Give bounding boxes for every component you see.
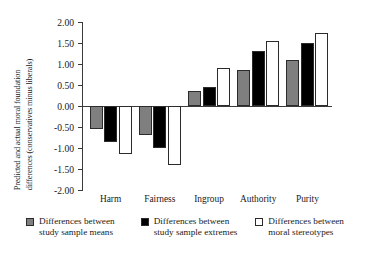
bar-purity-series-1 [286,60,299,106]
y-tick-mark [78,190,83,191]
y-tick-mark [78,127,83,128]
bar-chart-figure: Predicted and actual moral foundation di… [0,0,368,255]
y-tick-mark [78,22,83,23]
legend-swatch-icon [255,218,263,226]
legend-label: Differences betweenmoral stereotypes [268,216,344,238]
y-tick-label: 0.00 [40,101,74,112]
y-axis-title-line-2: differences (conservatives minus liberal… [26,59,34,190]
y-tick-label: -0.50 [40,122,74,133]
bar-purity-series-2 [301,43,314,106]
y-tick-label: 1.50 [40,38,74,49]
bar-authority-series-1 [237,70,250,106]
bar-fairness-series-2 [153,106,166,148]
x-axis-label-purity: Purity [296,194,319,204]
bar-harm-series-3 [119,106,132,154]
legend-label: Differences betweenstudy sample extremes [154,216,238,238]
y-tick-mark [78,148,83,149]
plot-area: 2.001.501.000.500.00-0.50-1.00-1.50-2.00… [86,22,332,190]
chart-legend: Differences betweenstudy sample meansDif… [26,216,356,238]
bar-series-container [86,22,332,190]
bar-group-purity [286,22,328,190]
bar-fairness-series-3 [168,106,181,165]
x-axis-label-fairness: Fairness [144,194,175,204]
legend-swatch-icon [141,218,149,226]
y-tick-label: -1.50 [40,164,74,175]
bar-group-fairness [139,22,181,190]
y-tick-label: -1.00 [40,143,74,154]
y-tick-label: -2.00 [40,185,74,196]
y-tick-label: 1.00 [40,59,74,70]
bar-group-harm [90,22,132,190]
legend-label: Differences betweenstudy sample means [39,216,115,238]
bar-group-ingroup [188,22,230,190]
bar-fairness-series-1 [139,106,152,135]
bar-ingroup-series-2 [203,87,216,106]
legend-item-1[interactable]: Differences betweenstudy sample means [26,216,127,238]
y-tick-mark [78,169,83,170]
bar-harm-series-1 [90,106,103,129]
x-axis-label-authority: Authority [240,194,276,204]
bar-purity-series-3 [315,33,328,107]
legend-swatch-icon [26,218,34,226]
legend-item-2[interactable]: Differences betweenstudy sample extremes [141,216,242,238]
bar-authority-series-2 [252,51,265,106]
bar-group-authority [237,22,279,190]
legend-item-3[interactable]: Differences betweenmoral stereotypes [255,216,356,238]
x-axis-label-harm: Harm [100,194,121,204]
y-tick-mark [78,64,83,65]
bar-ingroup-series-3 [217,68,230,106]
bar-ingroup-series-1 [188,91,201,106]
bar-authority-series-3 [266,41,279,106]
y-tick-label: 2.00 [40,17,74,28]
y-tick-label: 0.50 [40,80,74,91]
y-axis-title-line-1: Predicted and actual moral foundation [14,69,22,190]
x-axis-label-ingroup: Ingroup [194,194,224,204]
y-tick-mark [78,85,83,86]
y-tick-mark [78,43,83,44]
bar-harm-series-2 [104,106,117,142]
